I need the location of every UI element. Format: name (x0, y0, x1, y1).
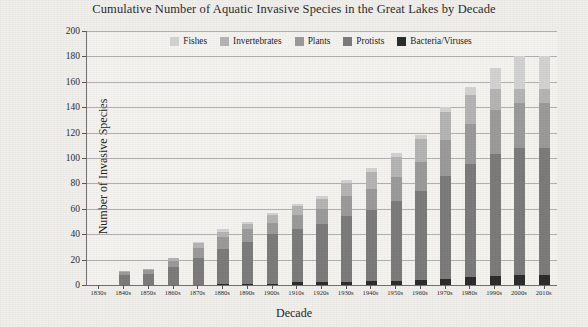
bar-2010s[interactable] (539, 56, 550, 285)
y-axis-tick-mark (82, 82, 86, 83)
bar-segment (465, 95, 476, 124)
legend-label: Fishes (183, 36, 207, 46)
plot-area: Number of Invasive Species (86, 31, 557, 286)
bar-segment (391, 177, 402, 201)
legend-swatch-icon (295, 37, 304, 46)
bar-segment (539, 56, 550, 89)
bar-segment (415, 162, 426, 191)
y-axis-tick-mark (82, 183, 86, 184)
legend-swatch-icon (397, 37, 406, 46)
legend-label: Bacteria/Viruses (410, 36, 471, 46)
bar-segment (217, 249, 228, 283)
y-axis-tick-mark (82, 56, 86, 57)
y-axis-tick-label: 80 (50, 178, 80, 188)
bar-1950s[interactable] (391, 153, 402, 285)
bar-segment (440, 279, 451, 285)
bar-segment (490, 68, 501, 90)
legend-swatch-icon (170, 37, 179, 46)
bar-segment (217, 237, 228, 250)
bar-segment (119, 275, 130, 285)
bar-segment (514, 148, 525, 275)
y-axis-tick-mark (82, 285, 86, 286)
bar-segment (341, 196, 352, 216)
bar-segment (391, 201, 402, 281)
bar-segment (415, 191, 426, 280)
x-axis-title: Decade (0, 306, 588, 321)
bar-segment (292, 229, 303, 282)
legend-label: Invertebrates (233, 36, 282, 46)
legend-item-protists[interactable]: Protists (343, 36, 384, 46)
bar-segment (440, 112, 451, 140)
bar-1910s[interactable] (292, 204, 303, 285)
legend-swatch-icon (343, 37, 352, 46)
bar-1970s[interactable] (440, 107, 451, 285)
y-axis-tick-mark (82, 260, 86, 261)
bar-segment (242, 229, 253, 242)
bar-segment (391, 157, 402, 177)
legend-item-bacteria-viruses[interactable]: Bacteria/Viruses (397, 36, 471, 46)
bar-1940s[interactable] (366, 168, 377, 285)
y-axis-tick-label: 140 (50, 102, 80, 112)
bar-segment (143, 274, 154, 285)
y-axis-tick-mark (82, 158, 86, 159)
legend-item-invertebrates[interactable]: Invertebrates (220, 36, 282, 46)
bar-1860s[interactable] (168, 258, 179, 285)
y-axis-tick-label: 160 (50, 77, 80, 87)
bar-segment (242, 284, 253, 285)
y-axis-tick-mark (82, 133, 86, 134)
y-axis-title: Number of Invasive Species (96, 17, 111, 317)
bar-segment (440, 176, 451, 279)
bar-segment (514, 103, 525, 147)
bar-2000s[interactable] (514, 56, 525, 285)
bar-segment (366, 210, 377, 281)
legend-item-plants[interactable]: Plants (295, 36, 331, 46)
y-axis-tick-label: 20 (50, 255, 80, 265)
bar-segment (193, 248, 204, 258)
bar-1850s[interactable] (143, 269, 154, 285)
y-axis-tick-label: 40 (50, 229, 80, 239)
bar-segment (168, 267, 179, 285)
y-axis-tick-label: 100 (50, 153, 80, 163)
bar-segment (465, 164, 476, 277)
bar-segment (514, 56, 525, 89)
bar-segment (415, 139, 426, 162)
y-axis-tick-mark (82, 209, 86, 210)
bar-1980s[interactable] (465, 87, 476, 285)
bar-segment (292, 282, 303, 285)
bar-segment (341, 183, 352, 196)
bar-segment (415, 280, 426, 285)
bar-segment (341, 216, 352, 282)
gridline (87, 133, 557, 134)
bar-segment (391, 281, 402, 285)
bar-1880s[interactable] (217, 229, 228, 285)
gridline (87, 56, 557, 57)
bar-segment (539, 148, 550, 275)
y-axis-tick-label: 200 (50, 26, 80, 36)
gridline (87, 82, 557, 83)
bar-1870s[interactable] (193, 242, 204, 285)
bar-segment (539, 275, 550, 285)
bar-segment (490, 154, 501, 276)
gridline (87, 31, 557, 32)
bar-segment (465, 124, 476, 165)
chart-legend: FishesInvertebratesPlantsProtistsBacteri… (86, 36, 556, 46)
bar-segment (267, 284, 278, 285)
bar-segment (242, 242, 253, 284)
bar-segment (316, 209, 327, 224)
bar-segment (267, 234, 278, 284)
legend-item-fishes[interactable]: Fishes (170, 36, 207, 46)
bar-1900s[interactable] (267, 213, 278, 285)
bar-segment (193, 258, 204, 285)
bar-1890s[interactable] (242, 222, 253, 285)
bar-segment (539, 89, 550, 103)
bar-1990s[interactable] (490, 68, 501, 285)
gridline (87, 107, 557, 108)
bar-1920s[interactable] (316, 196, 327, 285)
bar-1930s[interactable] (341, 180, 352, 285)
bar-1960s[interactable] (415, 135, 426, 285)
y-axis-tick-mark (82, 234, 86, 235)
bar-1840s[interactable] (119, 271, 130, 285)
bar-segment (316, 224, 327, 282)
legend-label: Plants (308, 36, 331, 46)
bar-segment (366, 189, 377, 211)
